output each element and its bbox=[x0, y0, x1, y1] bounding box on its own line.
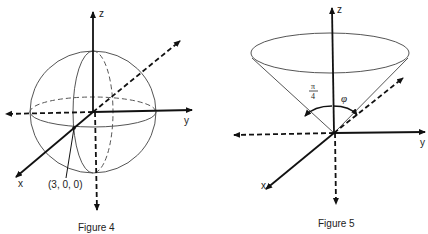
negative-x-axis bbox=[334, 78, 403, 133]
figure-5: π 4 φ z y x Figure 5 bbox=[234, 4, 425, 229]
y-axis-label: y bbox=[420, 137, 425, 148]
sphere-equator-front bbox=[30, 112, 156, 127]
figure-5-caption: Figure 5 bbox=[318, 218, 355, 229]
x-axis-label: x bbox=[261, 180, 266, 191]
cone-side-left bbox=[252, 58, 334, 133]
x-axis bbox=[16, 112, 93, 177]
phi-label: φ bbox=[341, 92, 347, 104]
z-axis-label: z bbox=[337, 4, 342, 15]
negative-y-axis bbox=[6, 112, 93, 114]
pi-numerator: π bbox=[311, 82, 315, 91]
negative-z-axis bbox=[335, 133, 336, 204]
pi-denominator: 4 bbox=[311, 92, 315, 101]
z-axis-label: z bbox=[99, 8, 104, 19]
y-axis bbox=[93, 110, 192, 112]
point-label: (3, 0, 0) bbox=[48, 179, 82, 190]
y-axis bbox=[334, 132, 425, 133]
negative-x-axis bbox=[93, 41, 180, 112]
x-axis bbox=[266, 133, 334, 189]
negative-y-axis bbox=[234, 133, 334, 135]
figure-4-caption: Figure 4 bbox=[78, 222, 115, 233]
angle-arc-pi-over-4 bbox=[305, 106, 332, 116]
figures-canvas: z y x (3, 0, 0) Figure 4 π 4 φ z y x bbox=[0, 0, 428, 234]
y-axis-label: y bbox=[184, 115, 189, 126]
x-axis-label: x bbox=[18, 178, 23, 189]
figure-4: z y x (3, 0, 0) Figure 4 bbox=[6, 8, 192, 233]
z-axis bbox=[332, 8, 334, 133]
cone-rim bbox=[251, 33, 409, 73]
point-leader-line bbox=[66, 128, 74, 178]
